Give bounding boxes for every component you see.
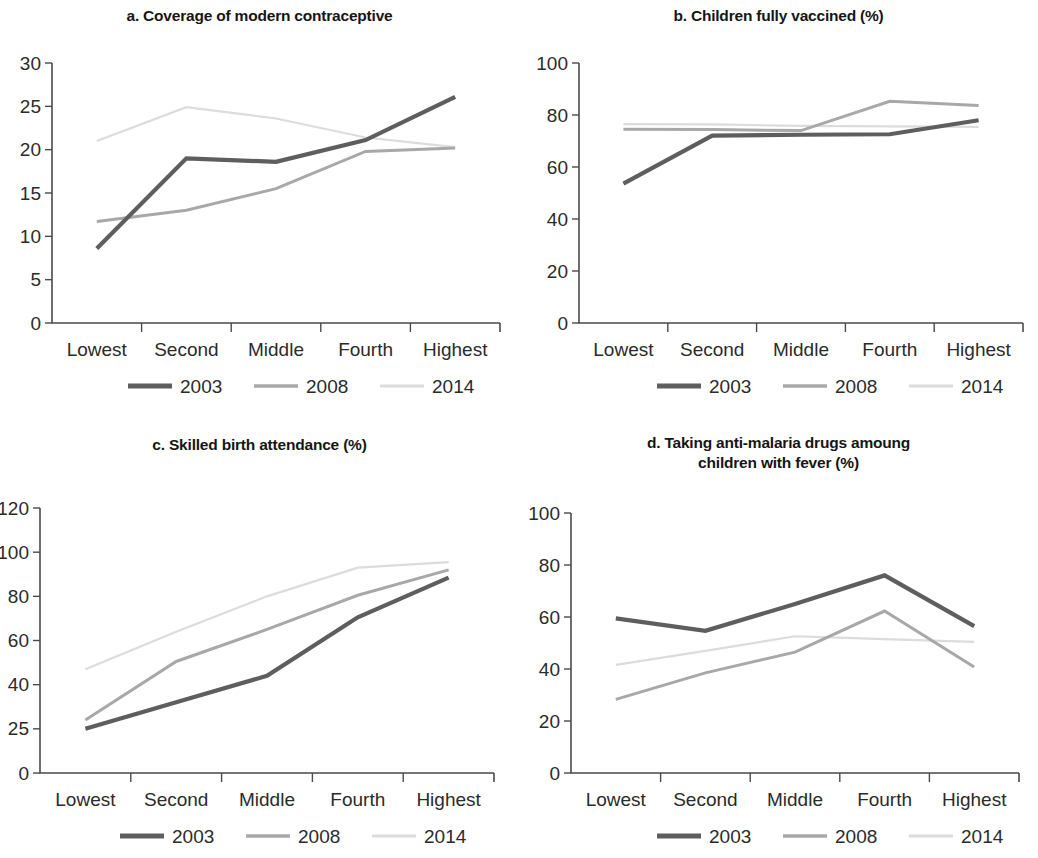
y-tick-label: 20 (20, 139, 41, 160)
y-tick-label: 60 (547, 157, 568, 178)
legend-label-2014: 2014 (961, 376, 1004, 397)
plot-area-a: 051015202530LowestSecondMiddleFourthHigh… (0, 0, 519, 429)
y-tick-label: 20 (539, 711, 560, 732)
y-tick-label: 0 (557, 313, 568, 334)
series-line-2008 (97, 148, 455, 222)
legend-label-2014: 2014 (432, 376, 475, 397)
figure-grid: a. Coverage of modern contraceptive05101… (0, 0, 1038, 858)
x-category-label: Highest (416, 789, 481, 810)
x-category-label: Middle (773, 339, 829, 360)
y-tick-label: 0 (30, 313, 41, 334)
x-category-label: Lowest (593, 339, 654, 360)
legend-label-2003: 2003 (172, 826, 214, 847)
y-tick-label: 20 (547, 261, 568, 282)
y-tick-label: 100 (536, 53, 568, 74)
y-tick-label: 40 (547, 209, 568, 230)
x-category-label: Highest (946, 339, 1011, 360)
x-category-label: Second (680, 339, 744, 360)
x-category-label: Highest (942, 789, 1007, 810)
x-category-label: Fourth (330, 789, 385, 810)
series-line-2008 (85, 570, 448, 720)
x-category-label: Lowest (586, 789, 647, 810)
x-category-label: Second (673, 789, 737, 810)
legend-label-2003: 2003 (709, 826, 751, 847)
y-tick-label: 40 (8, 674, 29, 695)
x-category-label: Middle (248, 339, 304, 360)
y-tick-label: 0 (18, 763, 29, 784)
legend-label-2014: 2014 (961, 826, 1004, 847)
x-category-label: Second (154, 339, 218, 360)
y-tick-label: 80 (547, 105, 568, 126)
x-category-label: Fourth (857, 789, 912, 810)
series-line-2003 (616, 575, 974, 630)
x-category-label: Lowest (55, 789, 116, 810)
series-line-2003 (85, 578, 448, 729)
y-tick-label: 0 (549, 763, 560, 784)
y-tick-label: 40 (539, 659, 560, 680)
y-tick-label: 25 (8, 718, 29, 739)
y-tick-label: 100 (528, 503, 560, 524)
y-tick-label: 25 (20, 96, 41, 117)
series-line-2014 (85, 562, 448, 669)
y-tick-label: 10 (20, 226, 41, 247)
y-tick-label: 5 (30, 269, 41, 290)
series-line-2014 (97, 107, 455, 147)
y-tick-label: 15 (20, 183, 41, 204)
chart-panel-b: b. Children fully vaccined (%)0204060801… (519, 0, 1038, 429)
x-category-label: Middle (767, 789, 823, 810)
legend-label-2003: 2003 (180, 376, 222, 397)
x-category-label: Lowest (67, 339, 128, 360)
x-category-label: Middle (239, 789, 295, 810)
legend-label-2008: 2008 (835, 826, 877, 847)
y-tick-label: 80 (539, 555, 560, 576)
x-category-label: Fourth (338, 339, 393, 360)
x-category-label: Fourth (862, 339, 917, 360)
plot-area-d: 020406080100LowestSecondMiddleFourthHigh… (519, 429, 1038, 858)
legend-label-2008: 2008 (306, 376, 348, 397)
y-tick-label: 60 (539, 607, 560, 628)
y-tick-label: 80 (8, 586, 29, 607)
y-tick-label: 100 (0, 542, 29, 563)
chart-panel-a: a. Coverage of modern contraceptive05101… (0, 0, 519, 429)
chart-panel-d: d. Taking anti-malaria drugs amoung chil… (519, 429, 1038, 858)
plot-area-c: 025406080100120LowestSecondMiddleFourthH… (0, 429, 519, 858)
plot-area-b: 020406080100LowestSecondMiddleFourthHigh… (519, 0, 1038, 429)
x-category-label: Second (144, 789, 208, 810)
y-tick-label: 120 (0, 498, 29, 519)
legend-label-2008: 2008 (835, 376, 877, 397)
y-tick-label: 60 (8, 630, 29, 651)
legend-label-2003: 2003 (709, 376, 751, 397)
x-category-label: Highest (423, 339, 488, 360)
y-tick-label: 30 (20, 53, 41, 74)
legend-label-2008: 2008 (298, 826, 340, 847)
legend-label-2014: 2014 (424, 826, 467, 847)
chart-panel-c: c. Skilled birth attendance (%)025406080… (0, 429, 519, 858)
